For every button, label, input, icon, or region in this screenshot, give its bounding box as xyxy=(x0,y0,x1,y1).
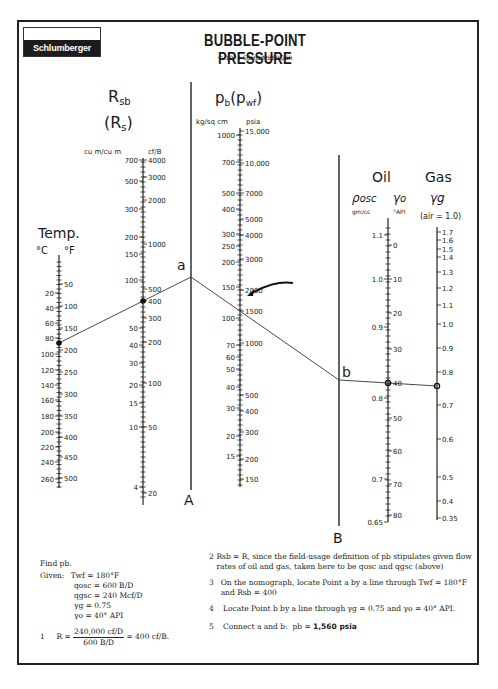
rsb-cfb-tick-label: 500 xyxy=(148,286,161,294)
rsb-metric-tick-label: 50 xyxy=(129,325,138,333)
oil-rho-label: ρosc xyxy=(352,191,377,205)
rsb-cfb-tick-label: 300 xyxy=(148,315,161,323)
rsb-metric-tick-label: 4 xyxy=(134,484,139,492)
pb-psia-tick-label: 1500 xyxy=(245,308,263,316)
oil-title: Oil xyxy=(372,169,391,185)
gas-gravity-tick-label: 1.2 xyxy=(442,285,453,293)
pb-kg-tick-label: 100 xyxy=(222,315,235,323)
gas-gravity-tick-label: 1.4 xyxy=(442,254,454,262)
temp-c-tick-label: 120 xyxy=(41,367,54,375)
pb-unit-right: psia xyxy=(246,118,260,126)
point-a-label: a xyxy=(177,257,186,273)
given-item: qosc = 600 B/D xyxy=(74,581,200,591)
gas-title: Gas xyxy=(425,169,452,185)
rsb-cfb-tick-label: 1000 xyxy=(148,241,166,249)
given-item: qgsc = 240 Mcf/D xyxy=(74,591,200,601)
temp-f-tick-label: 50 xyxy=(64,281,73,289)
gas-gravity-tick-label: 0.7 xyxy=(442,402,453,410)
rsb-cfb-tick-label: 3000 xyxy=(148,174,166,182)
oil-density-tick-label: 1.0 xyxy=(372,276,383,284)
rsb-cfb-tick-label: 50 xyxy=(148,424,157,432)
temp-c-tick-label: 220 xyxy=(41,444,54,452)
pb-psia-tick-label: 200 xyxy=(245,456,258,464)
pb-kg-tick-label: 15 xyxy=(226,453,235,461)
oil-api-tick-label: 50 xyxy=(393,415,402,423)
temp-f-tick-label: 400 xyxy=(64,434,77,442)
pb-unit-left: kg/sq cm xyxy=(196,118,228,126)
oil-api-tick-label: 30 xyxy=(393,346,402,354)
oil-gamma-label: γo xyxy=(393,191,406,205)
result-value: 1,560 psia xyxy=(313,622,357,632)
rsb-cfb-tick-label: 2000 xyxy=(148,197,166,205)
pb-kg-tick-label: 1000 xyxy=(217,132,235,140)
temp-f-tick-label: 300 xyxy=(64,391,77,399)
example-given: Find pb. Given: Twf = 180°F qosc = 600 B… xyxy=(40,559,200,648)
step-2: 2 Rsb = R, since the field-usage definit… xyxy=(209,552,474,572)
temp-c-tick-label: 100 xyxy=(41,351,54,359)
oil-density-tick-label: 0.9 xyxy=(372,324,383,332)
pb-psia-tick-label: 3000 xyxy=(245,256,263,264)
rsb-metric-tick-label: 30 xyxy=(129,360,138,368)
gas-gravity-tick-label: 1.1 xyxy=(442,302,453,310)
oil-density-tick-label: 0.7 xyxy=(372,476,383,484)
pb-title: pb(pwf) xyxy=(215,89,262,108)
rsb-cfb-tick-label: 100 xyxy=(148,380,161,388)
oil-density-tick-label: 0.65 xyxy=(367,519,383,527)
rs-subtitle: (Rs) xyxy=(104,113,133,133)
gas-unit: (air = 1.0) xyxy=(420,212,461,221)
temp-f-tick-label: 450 xyxy=(64,454,77,462)
gas-gravity-tick-label: 1.6 xyxy=(442,237,454,245)
temp-unit-f: °F xyxy=(64,245,75,256)
gas-gravity-tick-label: 0.35 xyxy=(442,515,458,523)
pb-psia-tick-label: 500 xyxy=(245,392,258,400)
step-1: 1 R = 240,000 cf/D 600 B/D = 400 cf/B. xyxy=(40,627,200,648)
rsb-metric-tick-label: 10 xyxy=(129,424,138,432)
temp-f-tick-label: 150 xyxy=(64,325,77,333)
rsb-metric-tick-label: 200 xyxy=(125,234,138,242)
rsb-metric-tick-label: 700 xyxy=(125,157,138,165)
rsb-metric-tick-label: 150 xyxy=(125,251,138,259)
given-item: γo = 40° API xyxy=(74,611,200,621)
pb-kg-tick-label: 300 xyxy=(222,231,235,239)
label-a-axis: A xyxy=(184,492,194,508)
solution-line-a-b xyxy=(191,277,339,380)
pb-psia-tick-label: 10,000 xyxy=(245,160,270,168)
pb-kg-tick-label: 20 xyxy=(226,433,235,441)
temp-f-tick-label: 200 xyxy=(64,347,77,355)
pb-kg-tick-label: 30 xyxy=(226,405,235,413)
point-rsb-400 xyxy=(140,298,146,304)
pb-psia-tick-label: 300 xyxy=(245,429,258,437)
pb-kg-tick-label: 200 xyxy=(222,259,235,267)
rsb-metric-tick-label: 40 xyxy=(129,342,138,350)
find-label: Find pb. xyxy=(40,559,200,569)
temp-c-tick-label: 40 xyxy=(45,305,54,313)
rsb-metric-tick-label: 100 xyxy=(125,277,138,285)
rsb-cfb-tick-label: 4000 xyxy=(148,157,166,165)
oil-api-tick-label: 80 xyxy=(393,512,402,520)
oil-api-tick-label: 60 xyxy=(393,448,402,456)
rsb-metric-tick-label: 15 xyxy=(129,400,138,408)
rsb-metric-tick-label: 500 xyxy=(125,178,138,186)
oil-api-tick-label: 70 xyxy=(393,481,402,489)
oil-density-tick-label: 1.1 xyxy=(372,232,383,240)
temp-c-tick-label: 180 xyxy=(41,413,54,421)
temp-c-tick-label: 240 xyxy=(41,459,54,467)
pb-psia-tick-label: 15,000 xyxy=(245,128,270,136)
oil-density-tick-label: 0.8 xyxy=(372,395,383,403)
gas-gamma-label: γg xyxy=(430,191,445,205)
gas-gravity-tick-label: 0.4 xyxy=(442,498,454,506)
given-item: Twf = 180°F xyxy=(71,571,119,580)
gas-gravity-tick-label: 0.6 xyxy=(442,436,454,444)
pb-psia-tick-label: 4000 xyxy=(245,232,263,240)
temp-c-tick-label: 80 xyxy=(45,335,54,343)
pb-kg-tick-label: 40 xyxy=(226,384,235,392)
pb-psia-tick-label: 400 xyxy=(245,408,258,416)
pb-kg-tick-label: 400 xyxy=(222,206,235,214)
pb-psia-tick-label: 7000 xyxy=(245,190,263,198)
gas-gravity-tick-label: 1.7 xyxy=(442,229,453,237)
example-steps: 2 Rsb = R, since the field-usage definit… xyxy=(209,552,474,632)
step-4: 4 Locate Point b by a line through γg = … xyxy=(209,604,474,614)
rsb-cfb-tick-label: 20 xyxy=(148,490,157,498)
gas-gravity-tick-label: 0.5 xyxy=(442,474,453,482)
rsb-metric-tick-label: 20 xyxy=(129,382,138,390)
